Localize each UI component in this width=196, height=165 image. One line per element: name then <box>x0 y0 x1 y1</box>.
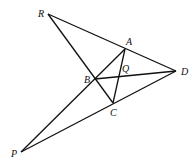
label-A: A <box>125 36 133 47</box>
label-P: P <box>10 148 17 159</box>
label-Q: Q <box>122 63 130 74</box>
segment-RC <box>48 14 113 103</box>
label-C: C <box>110 107 117 118</box>
geometry-diagram: R A D B Q C P <box>0 0 196 165</box>
label-D: D <box>180 66 189 77</box>
label-R: R <box>37 8 44 19</box>
label-B: B <box>84 74 90 85</box>
segment-PA <box>21 49 125 152</box>
segments <box>21 14 176 152</box>
